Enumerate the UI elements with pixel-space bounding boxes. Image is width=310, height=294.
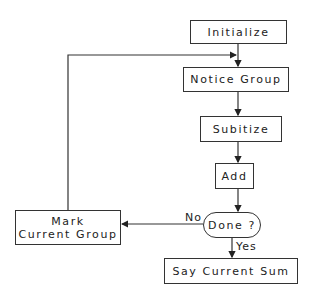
connector-lines — [0, 0, 310, 294]
subitize-label: Subitize — [213, 123, 270, 136]
add-node: Add — [215, 163, 254, 189]
mark-label-line2: Current Group — [18, 228, 117, 241]
say-current-sum-node: Say Current Sum — [164, 258, 298, 284]
notice-group-label: Notice Group — [190, 73, 281, 86]
initialize-node: Initialize — [190, 20, 287, 44]
no-edge-label: No — [185, 211, 202, 224]
done-label: Done ? — [208, 219, 256, 232]
say-sum-label: Say Current Sum — [172, 265, 289, 278]
notice-group-node: Notice Group — [183, 67, 289, 92]
yes-edge-label: Yes — [236, 240, 257, 253]
subitize-node: Subitize — [200, 116, 282, 142]
mark-label-line1: Mark — [51, 215, 85, 228]
done-decision-node: Done ? — [203, 212, 261, 238]
initialize-label: Initialize — [207, 26, 269, 39]
add-label: Add — [221, 170, 247, 183]
mark-current-group-node: Mark Current Group — [15, 210, 121, 245]
